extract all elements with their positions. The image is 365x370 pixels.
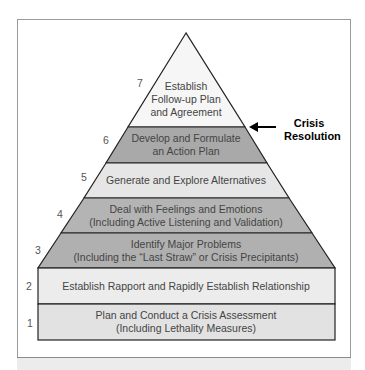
level-6-number: 6: [103, 134, 109, 146]
level-5-number: 5: [81, 171, 87, 183]
level-5-line1: Generate and Explore Alternatives: [106, 174, 266, 187]
crisis-resolution-annotation: Crisis Resolution: [284, 117, 334, 143]
level-6-line2: an Action Plan: [131, 145, 240, 158]
annotation-line2: Resolution: [284, 130, 334, 143]
level-4-line2: (Including Active Listening and Validati…: [89, 216, 283, 229]
level-7-line1: Establish: [150, 80, 221, 93]
level-4-line1: Deal with Feelings and Emotions: [89, 203, 283, 216]
level-7-number: 7: [137, 77, 143, 89]
annotation-line1: Crisis: [284, 117, 334, 130]
level-2-label: Establish Rapport and Rapidly Establish …: [62, 280, 309, 293]
level-6-label: Develop and Formulate an Action Plan: [131, 132, 240, 158]
level-1-number: 1: [27, 317, 33, 329]
level-1-line1: Plan and Conduct a Crisis Assessment: [96, 309, 277, 322]
arrow-left-icon: [249, 122, 276, 132]
level-7-line3: and Agreement: [150, 106, 221, 119]
level-5-label: Generate and Explore Alternatives: [106, 174, 266, 187]
level-3-line2: (Including the “Last Straw” or Crisis Pr…: [73, 251, 298, 264]
level-4-label: Deal with Feelings and Emotions (Includi…: [89, 203, 283, 229]
level-6-line1: Develop and Formulate: [131, 132, 240, 145]
level-4-number: 4: [57, 208, 63, 220]
level-3-line1: Identify Major Problems: [73, 238, 298, 251]
level-7-line2: Follow-up Plan: [150, 93, 221, 106]
level-1-line2: (Including Lethality Measures): [96, 322, 277, 335]
level-7-label: Establish Follow-up Plan and Agreement: [150, 80, 221, 119]
level-2-number: 2: [26, 280, 32, 292]
level-3-label: Identify Major Problems (Including the “…: [73, 238, 298, 264]
level-3-number: 3: [35, 244, 41, 256]
level-1-label: Plan and Conduct a Crisis Assessment (In…: [96, 309, 277, 335]
level-2-line1: Establish Rapport and Rapidly Establish …: [62, 280, 309, 293]
